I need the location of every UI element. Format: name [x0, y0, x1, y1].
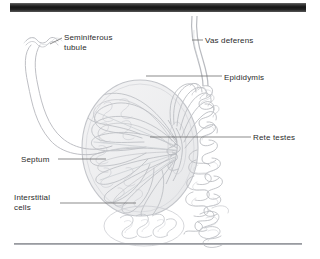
vas-deferens-coil-detail [199, 206, 229, 248]
label-interstitial-cells: Interstitial cells [14, 193, 50, 213]
label-rete-testes: Rete testes [253, 133, 295, 143]
label-vas-deferens: Vas deferens [205, 36, 253, 46]
label-septum: Septum [21, 155, 50, 165]
label-epididymis: Epididymis [224, 73, 264, 83]
figure-canvas: Seminiferous tubule Vas deferens Epididy… [0, 0, 320, 259]
anatomical-diagram [0, 0, 320, 259]
vas-deferens-duct [191, 16, 208, 86]
label-seminiferous-tubule: Seminiferous tubule [64, 33, 113, 53]
bottom-divider-rule [14, 243, 302, 245]
